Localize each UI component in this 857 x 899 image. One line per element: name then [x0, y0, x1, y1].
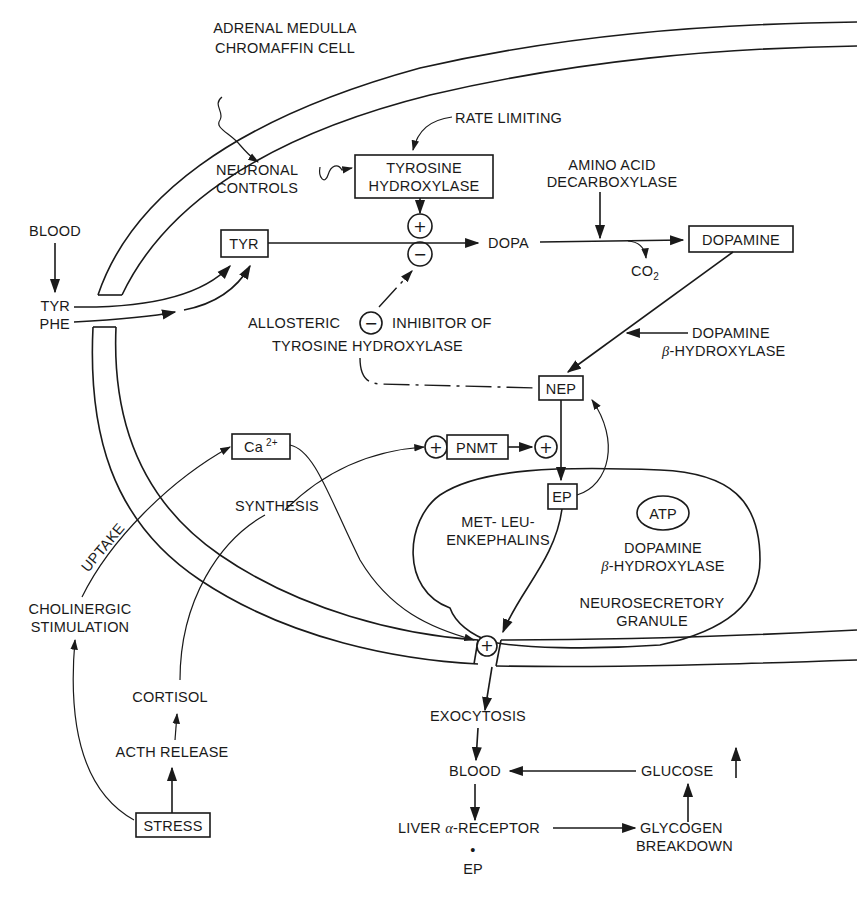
pnmt-label: PNMT	[456, 440, 498, 456]
dbh-label-1: DOPAMINE	[692, 325, 770, 341]
inhibitor-of-label: INHIBITOR OF	[392, 315, 492, 331]
cholinergic-label-2: STIMULATION	[31, 619, 130, 635]
granule-label-1: NEUROSECRETORY	[580, 595, 725, 611]
tyrosine-hydroxylase-label-1: TYROSINE	[386, 160, 462, 176]
bullet: •	[470, 842, 475, 858]
dbh-label-2: β-HYDROXYLASE	[661, 343, 786, 359]
blood-bottom-label: BLOOD	[449, 763, 501, 779]
granule-dbh-label-1: DOPAMINE	[624, 540, 702, 556]
enkephalins-label-1: MET- LEU-	[461, 514, 535, 530]
uptake-arrow	[82, 447, 230, 597]
granule-dbh-label-2: β-HYDROXYLASE	[600, 558, 725, 574]
acth-to-cortisol-arrow	[175, 714, 177, 740]
dopa-to-dopamine-arrow	[540, 240, 683, 242]
uptake-label: UPTAKE	[78, 520, 128, 575]
cortisol-label: CORTISOL	[132, 689, 207, 705]
stress-label: STRESS	[143, 818, 202, 834]
tyr-to-box-arrow	[74, 266, 230, 307]
allosteric-label: ALLOSTERIC	[248, 315, 340, 331]
enkephalins-label-2: ENKEPHALINS	[446, 532, 550, 548]
dopa-label: DOPA	[488, 235, 529, 251]
glycogen-label-2: BREAKDOWN	[636, 838, 733, 854]
ep-bottom-label: EP	[463, 861, 483, 877]
ep-box-label: EP	[552, 489, 572, 505]
glycogen-label-1: GLYCOGEN	[640, 820, 723, 836]
glucose-label: GLUCOSE	[641, 763, 713, 779]
pore-to-exocytosis-arrow	[485, 667, 492, 710]
allosteric-inhibition-arrow	[379, 271, 412, 307]
exocytosis-label: EXOCYTOSIS	[430, 708, 526, 724]
nep-feedback-dashed-line	[360, 358, 538, 388]
aad-label-2: DECARBOXYLASE	[547, 174, 678, 190]
rate-limiting-arrow	[413, 117, 452, 150]
aad-label-1: AMINO ACID	[568, 157, 655, 173]
plus-icon: +	[413, 217, 426, 236]
synthesis-label: SYNTHESIS	[235, 498, 319, 514]
rate-limiting-label: RATE LIMITING	[455, 110, 562, 126]
atp-label: ATP	[649, 506, 677, 522]
stress-to-cholinergic-arrow	[73, 640, 134, 820]
neuronal-controls-label-1: NEURONAL	[216, 162, 298, 178]
phe-to-tyr-arrow	[184, 266, 250, 310]
acth-release-label: ACTH RELEASE	[116, 744, 229, 760]
dopamine-box-label: DOPAMINE	[702, 232, 780, 248]
plus-icon: +	[429, 438, 442, 457]
phe-arrow	[74, 312, 175, 322]
neuronal-squiggle-arrow	[320, 166, 352, 180]
tyr-input-label: TYR	[40, 298, 70, 314]
cholinergic-label-1: CHOLINERGIC	[29, 601, 132, 617]
tyrosine-hydroxylase-label-2: HYDROXYLASE	[369, 178, 480, 194]
liver-receptor-label: LIVER α-RECEPTOR	[398, 820, 540, 836]
exocytosis-to-blood-arrow	[476, 728, 478, 760]
plus-icon: +	[480, 636, 493, 655]
minus-icon: −	[413, 245, 426, 264]
phe-input-label: PHE	[40, 316, 71, 332]
co2-label: CO2	[631, 263, 659, 282]
nep-box-label: NEP	[546, 381, 576, 397]
tyr-box-label: TYR	[229, 236, 259, 252]
chromaffin-cell-diagram: ADRENAL MEDULLA CHROMAFFIN CELL NEURONAL…	[0, 0, 857, 899]
co2-arrow	[628, 241, 646, 258]
blood-top-label: BLOOD	[29, 223, 81, 239]
title-line-2: CHROMAFFIN CELL	[215, 40, 355, 56]
minus-icon: −	[364, 314, 377, 333]
cortisol-to-synthesis-line	[180, 515, 265, 680]
neuronal-wave-arrow	[218, 97, 258, 162]
title-line-1: ADRENAL MEDULLA	[213, 20, 357, 36]
neuronal-controls-label-2: CONTROLS	[216, 180, 298, 196]
plus-icon: +	[539, 438, 552, 457]
ep-to-nep-arrow	[577, 400, 608, 495]
granule-label-2: GRANULE	[616, 613, 688, 629]
tyrosine-hydroxylase-line-label: TYROSINE HYDROXYLASE	[272, 338, 463, 354]
